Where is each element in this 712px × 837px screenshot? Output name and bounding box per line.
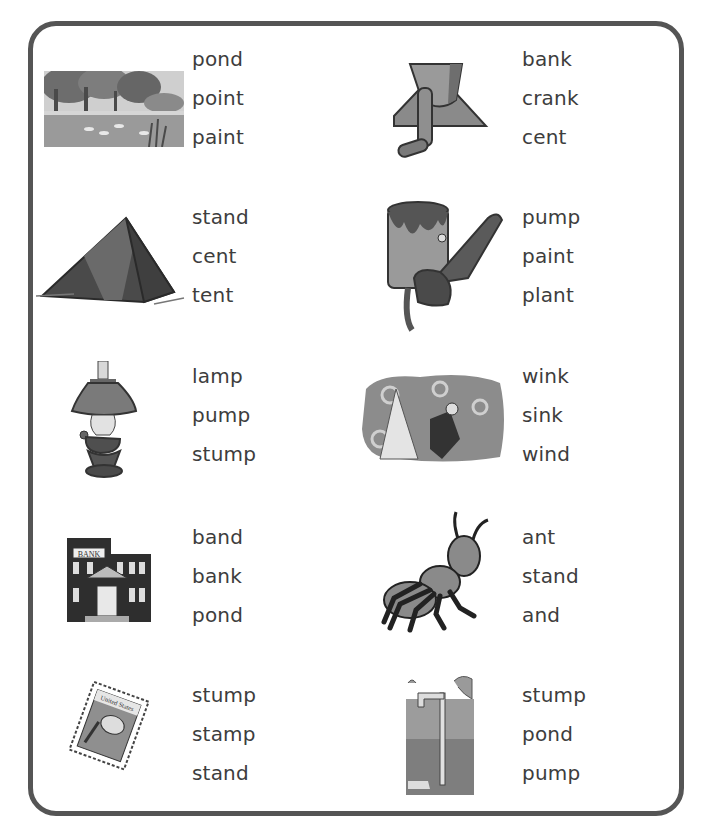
choice-1[interactable]: stump xyxy=(192,676,256,715)
choice-1[interactable]: stand xyxy=(192,198,249,237)
pond-icon xyxy=(44,71,184,147)
ant-icon xyxy=(380,504,490,634)
choice-3[interactable]: paint xyxy=(192,118,244,157)
bank-picture: BANK xyxy=(67,538,151,622)
paint-can-brush-icon xyxy=(378,198,508,333)
choice-3[interactable]: stand xyxy=(192,754,256,793)
item-bank: BANK band bank pond xyxy=(42,518,362,648)
choice-3[interactable]: pond xyxy=(192,596,243,635)
choice-2[interactable]: cent xyxy=(192,237,249,276)
item-pond: pond point paint xyxy=(42,40,362,170)
choice-2[interactable]: pond xyxy=(522,715,586,754)
ant-picture xyxy=(380,504,490,634)
windy-city-icon xyxy=(360,369,508,467)
tent-picture xyxy=(34,208,194,308)
water-pump-icon xyxy=(406,673,474,795)
svg-text:BANK: BANK xyxy=(78,550,101,559)
item-stamp: United States stump stamp stand xyxy=(42,676,362,806)
item-lamp: lamp pump stump xyxy=(42,357,362,487)
choice-2[interactable]: bank xyxy=(192,557,243,596)
postage-stamp-icon: United States xyxy=(68,680,152,772)
lamp-picture xyxy=(70,361,140,481)
choice-1[interactable]: lamp xyxy=(192,357,256,396)
choice-3[interactable]: wind xyxy=(522,435,570,474)
item-paint: pump paint plant xyxy=(372,198,692,328)
choice-2[interactable]: crank xyxy=(522,79,579,118)
paint-picture xyxy=(378,198,508,333)
stamp-picture: United States xyxy=(68,680,152,772)
item-crank: bank crank cent xyxy=(372,40,692,170)
choice-1[interactable]: ant xyxy=(522,518,579,557)
choice-2[interactable]: point xyxy=(192,79,244,118)
choice-2[interactable]: paint xyxy=(522,237,580,276)
choice-3[interactable]: stump xyxy=(192,435,256,474)
item-wind: wink sink wind xyxy=(372,357,692,487)
choice-3[interactable]: plant xyxy=(522,276,580,315)
choice-3[interactable]: cent xyxy=(522,118,579,157)
oil-lamp-icon xyxy=(70,361,140,481)
choice-2[interactable]: stamp xyxy=(192,715,256,754)
choice-1[interactable]: band xyxy=(192,518,243,557)
choice-2[interactable]: sink xyxy=(522,396,570,435)
choice-3[interactable]: tent xyxy=(192,276,249,315)
pond-picture xyxy=(44,71,184,147)
item-tent: stand cent tent xyxy=(42,198,362,328)
tent-icon xyxy=(34,208,194,308)
choice-1[interactable]: wink xyxy=(522,357,570,396)
choice-2[interactable]: pump xyxy=(192,396,256,435)
crank-picture xyxy=(390,58,490,163)
choice-1[interactable]: pond xyxy=(192,40,244,79)
crank-icon xyxy=(390,58,490,163)
item-pump: stump pond pump xyxy=(372,676,692,806)
choice-1[interactable]: stump xyxy=(522,676,586,715)
choice-3[interactable]: pump xyxy=(522,754,586,793)
bank-building-icon: BANK xyxy=(67,538,151,622)
pump-picture xyxy=(406,673,474,795)
choice-1[interactable]: pump xyxy=(522,198,580,237)
choice-3[interactable]: and xyxy=(522,596,579,635)
choice-2[interactable]: stand xyxy=(522,557,579,596)
wind-picture xyxy=(360,369,508,467)
choice-1[interactable]: bank xyxy=(522,40,579,79)
item-ant: ant stand and xyxy=(372,518,692,648)
